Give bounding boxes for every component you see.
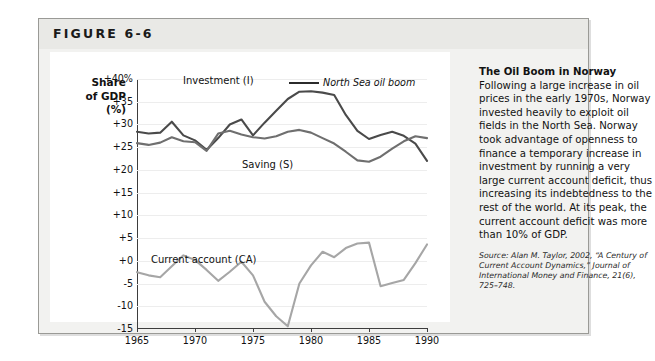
caption-text: The Oil Boom in Norway Following a large… xyxy=(479,65,655,242)
x-tick-label: 1975 xyxy=(241,335,265,346)
y-tick-label: +25 xyxy=(97,141,133,152)
y-tick-label: +40% xyxy=(97,73,133,84)
saving-series-label: Saving (S) xyxy=(242,159,293,170)
y-tick-label: +35 xyxy=(97,96,133,107)
oil-boom-pointer-line xyxy=(289,82,319,84)
caption-source: Source: Alan M. Taylor, 2002, “A Century… xyxy=(479,251,655,292)
y-tick-label: -15 xyxy=(97,323,133,334)
y-tick-label: +10 xyxy=(97,209,133,220)
figure-number-label: FIGURE 6-6 xyxy=(53,26,154,41)
y-tick-label: -5 xyxy=(97,278,133,289)
source-label: Source: xyxy=(479,251,509,260)
investment-series xyxy=(137,91,427,161)
current-account-series-label: Current account (CA) xyxy=(151,254,256,265)
x-tick-mark xyxy=(427,328,428,332)
series-lines xyxy=(137,79,427,329)
north-sea-oil-boom-annotation: North Sea oil boom xyxy=(323,77,415,88)
x-tick-label: 1990 xyxy=(415,335,439,346)
y-tick-label: +15 xyxy=(97,187,133,198)
caption-column: The Oil Boom in Norway Following a large… xyxy=(479,65,655,292)
x-tick-label: 1970 xyxy=(183,335,207,346)
y-tick-label: +30 xyxy=(97,118,133,129)
y-tick-label: -10 xyxy=(97,300,133,311)
chart-panel: Share of GDP (%) +40%+35+30+25+20+15+10+… xyxy=(50,52,450,322)
x-tick-label: 1965 xyxy=(125,335,149,346)
caption-body-text: Following a large increase in oil prices… xyxy=(479,80,652,241)
plot-area: +40%+35+30+25+20+15+10+5+0-5-10-15 19651… xyxy=(137,79,427,329)
x-tick-label: 1980 xyxy=(299,335,323,346)
investment-series-label: Investment (I) xyxy=(183,75,254,86)
y-tick-label: +5 xyxy=(97,232,133,243)
y-tick-label: +0 xyxy=(97,255,133,266)
caption-title: The Oil Boom in Norway xyxy=(479,66,616,77)
y-tick-label: +20 xyxy=(97,164,133,175)
figure-frame: FIGURE 6-6 Share of GDP (%) +40%+35+30+2… xyxy=(38,18,589,334)
x-tick-label: 1985 xyxy=(357,335,381,346)
